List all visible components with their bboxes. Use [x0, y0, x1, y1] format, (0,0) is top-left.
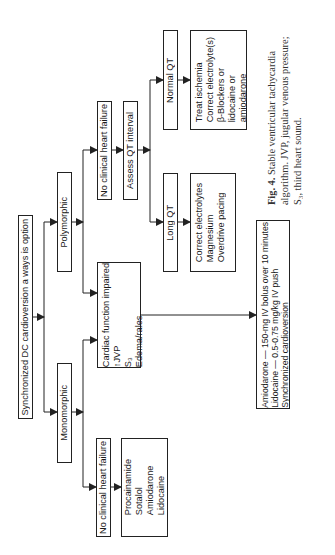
treatment-line: Amiodarone — 150-mg IV bolus over 10 min… — [260, 222, 270, 408]
treatment-line: Correct electrolyte(s) — [205, 37, 216, 122]
cardiac-line: Cardiac function impaired — [101, 263, 112, 367]
mono-no-chf-label: No clinical heart failure — [98, 441, 109, 534]
long-qt-box: Long QT — [163, 173, 178, 272]
root-box-synchronized-cardioversion: Synchronized DC cardioversion a ways is … — [18, 215, 33, 419]
treatment-line: β-Blockers or — [216, 37, 227, 122]
root-label: Synchronized DC cardioversion a ways is … — [20, 219, 31, 416]
normal-qt-treatment-box: Treat ischemia Correct electrolyte(s) β-… — [190, 30, 247, 130]
cardiac-line: Edema/rales — [134, 263, 145, 367]
monomorphic-box: Monomorphic — [57, 363, 72, 463]
mono-no-chf-box: No clinical heart failure — [96, 438, 111, 537]
polymorphic-box: Polymorphic — [57, 172, 72, 272]
cardiac-treatment-text: Amiodarone — 150-mg IV bolus over 10 min… — [260, 222, 290, 408]
caption-label: Fig. 4. — [266, 178, 277, 205]
drug-line: Amiodarone — [145, 459, 156, 515]
monomorphic-label: Monomorphic — [59, 385, 70, 441]
normal-qt-treatment-text: Treat ischemia Correct electrolyte(s) β-… — [194, 37, 249, 122]
cardiac-line: ↑JVP — [112, 263, 123, 367]
mono-drugs-text: Procainamide Sotalol Amiodarone Lidocain… — [123, 459, 167, 515]
treatment-line: lidocaine or — [227, 37, 238, 122]
treatment-line: Correct electrolytes — [194, 183, 205, 262]
long-qt-treatment-box: Correct electrolytes Magnesium Overdrive… — [190, 173, 236, 272]
drug-line: Sotalol — [134, 459, 145, 515]
treatment-line: Lidocaine — 0.5-0.75 mg/kg IV push — [270, 222, 280, 408]
cardiac-line: S₃ — [123, 263, 134, 367]
treatment-line: Treat ischemia — [194, 37, 205, 122]
mono-drugs-box: Procainamide Sotalol Amiodarone Lidocain… — [121, 438, 168, 537]
treatment-line: Overdrive pacing — [216, 183, 227, 262]
assess-qt-label: Assess QT interval — [125, 112, 136, 189]
treatment-line: Synchronized cardioversion — [280, 222, 290, 408]
cardiac-impaired-text: Cardiac function impaired ↑JVP S₃ Edema/… — [101, 263, 145, 367]
normal-qt-label: Normal QT — [165, 58, 176, 103]
poly-no-chf-box: No clinical heart failure — [97, 101, 112, 200]
treatment-line: Magnesium — [205, 183, 216, 262]
cardiac-impaired-box: Cardiac function impaired ↑JVP S₃ Edema/… — [97, 262, 141, 368]
long-qt-label: Long QT — [165, 205, 176, 241]
drug-line: Procainamide — [123, 459, 134, 515]
normal-qt-box: Normal QT — [163, 30, 178, 130]
figure-caption: Fig. 4. Stable ventricular tachycardia a… — [258, 30, 310, 205]
cardiac-impaired-treatment-box: Amiodarone — 150-mg IV bolus over 10 min… — [256, 220, 290, 409]
polymorphic-label: Polymorphic — [59, 197, 70, 248]
poly-no-chf-label: No clinical heart failure — [99, 104, 110, 197]
caption-text: Fig. 4. Stable ventricular tachycardia a… — [265, 30, 304, 205]
long-qt-treatment-text: Correct electrolytes Magnesium Overdrive… — [194, 183, 227, 262]
assess-qt-box: Assess QT interval — [123, 101, 138, 200]
treatment-line: amiodarone — [238, 37, 249, 122]
drug-line: Lidocaine — [156, 459, 167, 515]
